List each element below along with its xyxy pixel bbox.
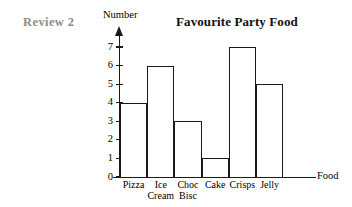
bar [120,103,147,177]
y-axis-tick-label: 0 [99,172,113,183]
chart-page: Review 2 Favourite Party Food Number Foo… [0,0,352,207]
y-axis-tick-label: 3 [99,116,113,127]
x-axis-category-label: Jelly [250,179,289,190]
bar [229,47,256,177]
bar [174,121,201,177]
bar [202,158,229,177]
plot-area: 01234567 PizzaIce CreamChoc BiscCakeCris… [0,0,352,207]
y-axis-tick [116,84,123,85]
y-axis-tick-label: 1 [99,153,113,164]
y-axis-tick [116,46,123,47]
y-axis-tick [116,65,123,66]
y-axis-tick-label: 7 [99,42,113,53]
bar [256,84,283,177]
y-axis-tick-label: 2 [99,134,113,145]
y-axis-tick-label: 6 [99,60,113,71]
y-axis-tick-label: 4 [99,97,113,108]
bar [147,66,174,177]
y-axis-tick-label: 5 [99,79,113,90]
